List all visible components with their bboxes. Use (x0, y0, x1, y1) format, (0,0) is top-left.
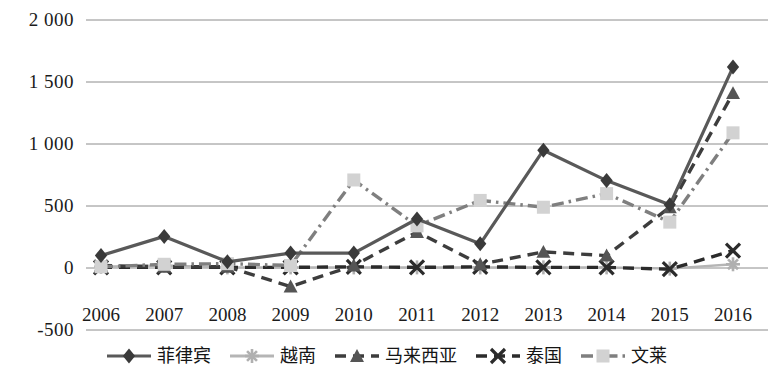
x-axis-tick-label: 2007 (145, 305, 183, 324)
data-point-square-marker (284, 259, 297, 272)
legend-item-4[interactable]: 泰国 (474, 344, 562, 368)
data-point-square-marker (347, 173, 360, 186)
data-point-square-marker (474, 194, 487, 207)
x-axis-tick-label: 2015 (651, 305, 689, 324)
legend-key-diamond-icon (105, 346, 153, 366)
x-axis-tick-label: 2011 (398, 305, 435, 324)
legend-label: 越南 (280, 347, 316, 365)
data-point-diamond-marker (348, 246, 360, 261)
data-point-triangle-marker (726, 86, 740, 99)
data-point-square-marker (727, 126, 740, 139)
chart-legend: 菲律宾越南马来西亚泰国文莱 (0, 344, 772, 368)
x-axis-tick-label: 2010 (335, 305, 373, 324)
legend-label: 菲律宾 (157, 347, 211, 365)
x-axis-tick-label: 2006 (82, 305, 120, 324)
y-axis-tick-label: 1 000 (0, 134, 74, 153)
data-point-square-marker (597, 350, 610, 363)
x-axis-tick-label: 2008 (208, 305, 246, 324)
data-point-diamond-marker (158, 229, 170, 244)
series-5 (95, 126, 740, 273)
legend-label: 泰国 (526, 347, 562, 365)
data-point-square-marker (158, 258, 171, 271)
y-axis-tick-label: 2 000 (0, 10, 74, 29)
legend-key-triangle-icon (333, 346, 381, 366)
data-point-diamond-marker (727, 60, 739, 75)
data-point-asterisk-marker (726, 257, 740, 271)
x-axis-tick-label: 2016 (714, 305, 752, 324)
data-point-square-marker (537, 201, 550, 214)
legend-item-3[interactable]: 马来西亚 (333, 344, 457, 368)
x-axis-tick-label: 2009 (272, 305, 310, 324)
data-point-diamond-marker (123, 349, 135, 364)
legend-key-square-icon (579, 346, 627, 366)
series-line (101, 133, 733, 267)
line-chart: 2 0001 5001 0005000-500 2006200720082009… (0, 0, 772, 368)
data-point-square-marker (663, 216, 676, 229)
data-point-asterisk-marker (245, 349, 259, 363)
legend-item-2[interactable]: 越南 (228, 344, 316, 368)
legend-key-asterisk-icon (228, 346, 276, 366)
x-axis-tick-label: 2013 (524, 305, 562, 324)
y-axis-tick-label: -500 (0, 320, 74, 339)
y-axis-tick-label: 1 500 (0, 72, 74, 91)
x-axis-tick-label: 2014 (588, 305, 626, 324)
legend-label: 文莱 (631, 347, 667, 365)
legend-item-5[interactable]: 文莱 (579, 344, 667, 368)
data-point-square-marker (600, 187, 613, 200)
y-axis-tick-label: 0 (0, 258, 74, 277)
series-line (101, 93, 733, 286)
y-axis-tick-label: 500 (0, 196, 74, 215)
series-layer (94, 60, 740, 293)
legend-item-1[interactable]: 菲律宾 (105, 344, 211, 368)
legend-key-x-icon (474, 346, 522, 366)
gridlines (86, 20, 768, 330)
legend-label: 马来西亚 (385, 347, 457, 365)
data-point-diamond-marker (600, 173, 612, 188)
x-axis-tick-label: 2012 (461, 305, 499, 324)
